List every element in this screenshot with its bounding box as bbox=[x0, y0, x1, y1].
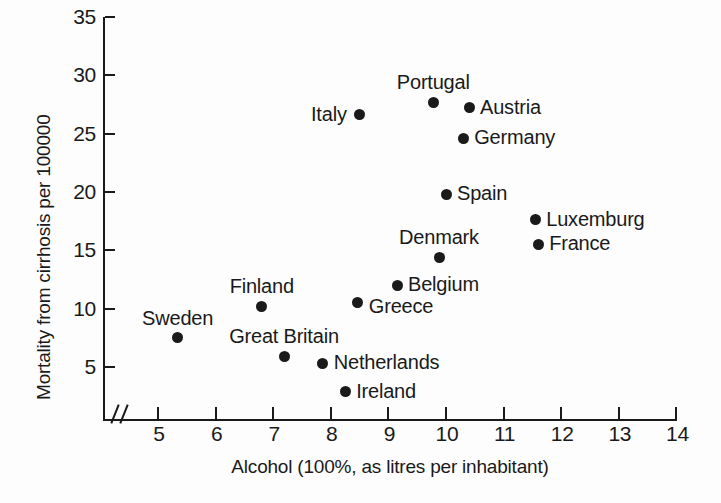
y-tick-10 bbox=[105, 308, 115, 310]
data-point-portugal[interactable] bbox=[428, 97, 439, 108]
data-label-germany: Germany bbox=[474, 127, 555, 147]
x-tick-label-14: 14 bbox=[657, 423, 697, 444]
y-tick-25 bbox=[105, 133, 115, 135]
y-tick-20 bbox=[105, 191, 115, 193]
data-point-ireland[interactable] bbox=[340, 386, 351, 397]
y-tick-label-30: 30 bbox=[52, 64, 96, 85]
y-tick-5 bbox=[105, 366, 115, 368]
data-label-austria: Austria bbox=[480, 97, 541, 117]
y-tick-15 bbox=[105, 249, 115, 251]
x-tick-label-10: 10 bbox=[427, 423, 467, 444]
y-tick-label-25: 25 bbox=[52, 123, 96, 144]
data-label-luxemburg: Luxemburg bbox=[546, 209, 644, 229]
data-label-belgium: Belgium bbox=[408, 274, 479, 294]
scatter-plot-figure: 5101520253035 567891011121314 Mortality … bbox=[0, 0, 721, 503]
y-tick-35 bbox=[105, 16, 115, 18]
x-tick-10 bbox=[445, 407, 447, 419]
x-tick-9 bbox=[387, 407, 389, 419]
x-tick-label-6: 6 bbox=[197, 423, 237, 444]
x-tick-8 bbox=[330, 407, 332, 419]
x-tick-label-12: 12 bbox=[542, 423, 582, 444]
x-tick-13 bbox=[618, 407, 620, 419]
y-axis-title: Mortality from cirrhosis per 100000 bbox=[34, 10, 53, 400]
data-point-spain[interactable] bbox=[441, 189, 452, 200]
data-point-greece[interactable] bbox=[352, 297, 363, 308]
data-point-austria[interactable] bbox=[464, 102, 475, 113]
data-label-france: France bbox=[549, 233, 610, 253]
x-axis-line bbox=[103, 419, 677, 421]
plot-area: 5101520253035 567891011121314 Mortality … bbox=[0, 0, 721, 503]
data-label-portugal: Portugal bbox=[397, 72, 470, 92]
y-axis-line bbox=[103, 17, 105, 421]
data-label-netherlands: Netherlands bbox=[334, 352, 440, 372]
y-tick-label-15: 15 bbox=[52, 239, 96, 260]
x-tick-label-9: 9 bbox=[369, 423, 409, 444]
x-axis-title: Alcohol (100%, as litres per inhabitant) bbox=[103, 457, 677, 476]
x-tick-label-5: 5 bbox=[139, 423, 179, 444]
data-label-ireland: Ireland bbox=[356, 381, 416, 401]
x-tick-11 bbox=[503, 407, 505, 419]
data-label-sweden: Sweden bbox=[142, 308, 213, 328]
data-point-netherlands[interactable] bbox=[317, 358, 328, 369]
data-label-denmark: Denmark bbox=[399, 227, 479, 247]
x-tick-14 bbox=[675, 407, 677, 419]
data-label-finland: Finland bbox=[230, 276, 294, 296]
data-point-sweden[interactable] bbox=[172, 332, 183, 343]
data-point-germany[interactable] bbox=[458, 133, 469, 144]
x-tick-label-11: 11 bbox=[485, 423, 525, 444]
data-label-great-britain: Great Britain bbox=[229, 326, 339, 346]
x-tick-5 bbox=[157, 407, 159, 419]
data-point-denmark[interactable] bbox=[434, 252, 445, 263]
data-point-great-britain[interactable] bbox=[279, 351, 290, 362]
data-point-italy[interactable] bbox=[354, 109, 365, 120]
data-label-greece: Greece bbox=[369, 296, 433, 316]
data-point-france[interactable] bbox=[533, 239, 544, 250]
data-point-luxemburg[interactable] bbox=[530, 214, 541, 225]
data-label-spain: Spain bbox=[457, 183, 507, 203]
data-label-italy: Italy bbox=[311, 104, 347, 124]
x-tick-label-8: 8 bbox=[312, 423, 352, 444]
y-tick-label-5: 5 bbox=[52, 356, 96, 377]
y-tick-label-35: 35 bbox=[52, 6, 96, 27]
x-tick-label-13: 13 bbox=[600, 423, 640, 444]
data-point-finland[interactable] bbox=[256, 301, 267, 312]
y-tick-label-10: 10 bbox=[52, 298, 96, 319]
x-tick-6 bbox=[215, 407, 217, 419]
y-tick-label-20: 20 bbox=[52, 181, 96, 202]
x-tick-12 bbox=[560, 407, 562, 419]
x-axis-break-icon bbox=[110, 404, 136, 424]
x-tick-7 bbox=[272, 407, 274, 419]
y-tick-30 bbox=[105, 74, 115, 76]
data-point-belgium[interactable] bbox=[392, 280, 403, 291]
x-tick-label-7: 7 bbox=[254, 423, 294, 444]
